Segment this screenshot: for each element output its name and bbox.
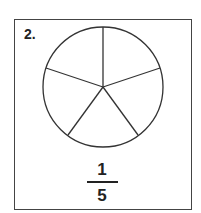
- divider-line: [68, 87, 103, 135]
- divider-line: [103, 87, 138, 135]
- divider-line: [103, 68, 160, 87]
- fraction-bar: [87, 181, 118, 183]
- fraction-denominator: 5: [82, 187, 122, 204]
- divider-line: [46, 68, 103, 87]
- fraction-numerator: 1: [82, 161, 122, 178]
